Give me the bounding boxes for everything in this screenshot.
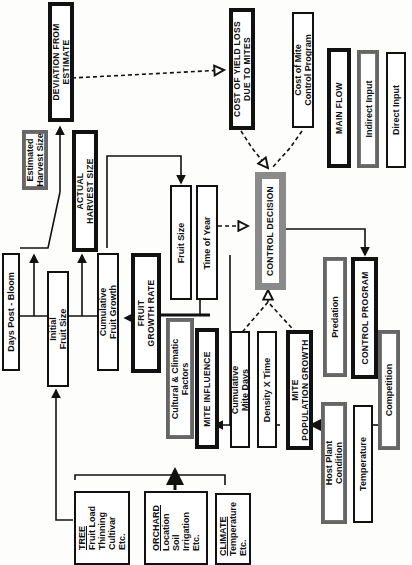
- host-plant-label: Host Plant Condition: [324, 441, 344, 486]
- line-1: COST OF YIELD LOSS: [232, 21, 242, 117]
- control-program-box: CONTROL PROGRAM: [351, 257, 378, 379]
- mite-influence-box: MITE INFLUENCE: [195, 328, 219, 449]
- legend-indirect-input: Indirect Input: [357, 50, 379, 168]
- legend-main-flow-label: MAIN FLOW: [334, 82, 344, 134]
- tree-item: Fruit Load: [87, 506, 97, 550]
- predation-label: Predation: [330, 296, 340, 338]
- line-2: Mite Days: [240, 365, 250, 414]
- line-2: HARVEST SIZE: [85, 158, 95, 223]
- orchard-title: ORCHARD: [151, 505, 161, 551]
- actual-harvest-label: ACTUAL HARVEST SIZE: [75, 158, 95, 223]
- legend-main-flow: MAIN FLOW: [327, 48, 351, 168]
- cost-control-label: Cost of Mite Control Program: [293, 34, 313, 106]
- cumulative-fruit-growth-label: Cumulative Fruit Growth: [98, 285, 118, 339]
- tree-box: TREE Fruit Load Thinning Cultivar Etc.: [74, 491, 130, 565]
- line-2: Fruit Size: [58, 309, 68, 350]
- competition-label: Competition: [384, 364, 394, 417]
- cumulative-fruit-growth-box: Cumulative Fruit Growth: [97, 253, 119, 371]
- tree-item: Thinning: [97, 506, 107, 550]
- cost-yield-loss-label: COST OF YIELD LOSS DUE TO MITES: [232, 21, 252, 117]
- line-1: Cost of Mite: [293, 34, 303, 106]
- competition-box: Competition: [378, 330, 400, 450]
- orchard-item: Location: [161, 505, 171, 551]
- predation-box: Predation: [323, 257, 347, 377]
- climate-label: CLIMATE Temperature Etc.: [218, 502, 248, 556]
- fruit-size-box: Fruit Size: [170, 185, 192, 300]
- cost-of-yield-loss-box: COST OF YIELD LOSS DUE TO MITES: [229, 8, 255, 130]
- cultural-climatic-box: Cultural & Climatic Factors: [166, 318, 194, 439]
- flowchart-diagram: DEVIATION FROM ESTIMATE COST OF YIELD LO…: [0, 0, 412, 565]
- orchard-item: Irrigation: [181, 505, 191, 551]
- line-1: FRUIT: [136, 280, 146, 347]
- climate-item: Etc.: [238, 502, 248, 556]
- climate-box: CLIMATE Temperature Etc.: [215, 493, 251, 565]
- mite-population-growth-box: MITE POPULATION GROWTH: [286, 330, 313, 450]
- time-of-year-box: Time of Year: [196, 185, 218, 300]
- fruit-size-label: Fruit Size: [176, 222, 186, 263]
- line-1: Cumulative: [98, 285, 108, 339]
- estimated-harvest-label: Estimated Harvest Size: [25, 133, 45, 187]
- actual-harvest-box: ACTUAL HARVEST SIZE: [72, 130, 98, 252]
- line-2: Fruit Growth: [108, 285, 118, 339]
- fruit-growth-rate-label: FRUIT GROWTH RATE: [136, 280, 156, 347]
- legend-direct-label: Direct Input: [391, 85, 401, 135]
- deviation-from-estimate-box: DEVIATION FROM ESTIMATE: [48, 2, 74, 122]
- host-plant-condition-box: Host Plant Condition: [321, 402, 347, 524]
- line-2: Condition: [334, 441, 344, 486]
- density-x-time-box: Density X Time: [257, 331, 277, 448]
- initial-fruit-size-label: Initial Fruit Size: [48, 309, 68, 350]
- tree-label: TREE Fruit Load Thinning Cultivar Etc.: [77, 506, 127, 550]
- line-1: Estimated: [25, 133, 35, 187]
- line-1: Initial: [48, 309, 58, 350]
- line-1: MITE: [290, 339, 300, 440]
- line-1: DEVIATION FROM: [51, 23, 61, 100]
- line-2: GROWTH RATE: [146, 280, 156, 347]
- orchard-item: Etc.: [191, 505, 201, 551]
- orchard-item: Soil: [171, 505, 181, 551]
- line-1: Cumulative: [230, 365, 240, 414]
- orchard-box: ORCHARD Location Soil Irrigation Etc.: [144, 491, 208, 565]
- line-2: POPULATION GROWTH: [300, 339, 310, 440]
- line-2: DUE TO MITES: [242, 21, 252, 117]
- control-decision-box: CONTROL DECISION: [255, 172, 286, 290]
- days-post-bloom-label: Days Post - Bloom: [6, 272, 16, 352]
- tree-item: Etc.: [117, 506, 127, 550]
- tree-item: Cultivar: [107, 506, 117, 550]
- climate-title: CLIMATE: [218, 502, 228, 556]
- control-decision-label: CONTROL DECISION: [266, 186, 276, 276]
- initial-fruit-size-box: Initial Fruit Size: [47, 271, 69, 387]
- temperature-box: Temperature: [353, 405, 373, 523]
- fruit-growth-rate-box: FRUIT GROWTH RATE: [131, 253, 161, 373]
- legend-direct-input: Direct Input: [386, 52, 406, 168]
- mite-population-growth-label: MITE POPULATION GROWTH: [290, 339, 310, 440]
- line-2: Harvest Size: [35, 133, 45, 187]
- cumulative-mite-days-box: Cumulative Mite Days: [230, 331, 250, 448]
- temperature-label: Temperature: [358, 437, 368, 491]
- line-1: Cultural & Climatic: [170, 338, 180, 419]
- cost-of-mite-control-box: Cost of Mite Control Program: [292, 12, 314, 128]
- mite-influence-label: MITE INFLUENCE: [202, 351, 212, 427]
- line-2: ESTIMATE: [61, 23, 71, 100]
- cumulative-mite-days-label: Cumulative Mite Days: [230, 365, 250, 414]
- control-program-label: CONTROL PROGRAM: [360, 271, 370, 364]
- time-of-year-label: Time of Year: [202, 216, 212, 269]
- line-2: Factors: [180, 338, 190, 419]
- line-1: Host Plant: [324, 441, 334, 486]
- line-1: ACTUAL: [75, 158, 85, 223]
- orchard-label: ORCHARD Location Soil Irrigation Etc.: [151, 505, 201, 551]
- legend-indirect-label: Indirect Input: [363, 81, 373, 138]
- deviation-label: DEVIATION FROM ESTIMATE: [51, 23, 71, 100]
- climate-item: Temperature: [228, 502, 238, 556]
- density-time-label: Density X Time: [262, 357, 272, 421]
- cultural-climatic-label: Cultural & Climatic Factors: [170, 338, 190, 419]
- days-post-bloom-box: Days Post - Bloom: [2, 253, 20, 371]
- tree-title: TREE: [77, 506, 87, 550]
- estimated-harvest-box: Estimated Harvest Size: [22, 130, 48, 190]
- line-2: Control Program: [303, 34, 313, 106]
